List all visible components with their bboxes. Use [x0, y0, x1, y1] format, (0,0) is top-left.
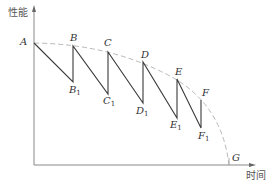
performance-envelope-curve — [34, 43, 229, 165]
label-c-text: C — [104, 37, 112, 48]
label-f1-sub: 1 — [205, 135, 209, 143]
point-label-g: G — [232, 153, 240, 163]
label-f-text: F — [202, 87, 209, 98]
y-axis-arrow-icon — [32, 5, 36, 12]
x-axis-label: 时间 — [246, 171, 266, 181]
y-axis-label: 性能 — [8, 8, 28, 18]
point-label-b: B — [70, 33, 77, 43]
point-label-a: A — [20, 37, 27, 47]
label-a-text: A — [20, 36, 27, 47]
label-b1-sub: 1 — [76, 89, 80, 97]
point-label-d: D — [141, 50, 149, 60]
label-e-text: E — [175, 66, 182, 77]
point-label-f1: F1 — [198, 131, 209, 143]
point-label-e: E — [175, 67, 182, 77]
degradation-sawtooth-line — [34, 43, 201, 128]
point-label-d1: D1 — [136, 106, 149, 118]
label-b-text: B — [70, 32, 77, 43]
point-label-f: F — [202, 88, 209, 98]
label-c1-sub: 1 — [111, 100, 115, 108]
x-axis-arrow-icon — [249, 163, 256, 167]
label-c1-text: C — [103, 95, 111, 106]
point-label-c: C — [104, 38, 112, 48]
label-d1-text: D — [136, 105, 144, 116]
point-label-b1: B1 — [69, 85, 81, 97]
label-f1-text: F — [198, 130, 205, 141]
label-d1-sub: 1 — [144, 110, 148, 118]
label-e1-sub: 1 — [177, 124, 181, 132]
point-label-c1: C1 — [103, 96, 115, 108]
point-label-e1: E1 — [170, 120, 182, 132]
label-d-text: D — [141, 49, 149, 60]
label-g-text: G — [232, 152, 240, 163]
